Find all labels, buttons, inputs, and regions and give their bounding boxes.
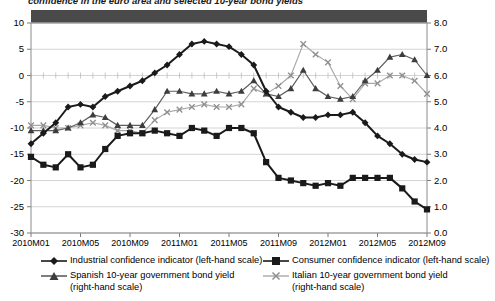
x-axis-tick: 2011M09 xyxy=(255,238,303,248)
right-axis-tick: 3.0 xyxy=(434,149,464,159)
legend-italian[interactable]: Italian 10-year government bond yield (r… xyxy=(262,270,495,293)
x-axis-tick: 2011M05 xyxy=(205,238,253,248)
left-axis-tick: -5 xyxy=(0,97,24,107)
legend-italian-label2: (right-hand scale) xyxy=(292,282,495,294)
right-axis-tick: 8.0 xyxy=(434,18,464,28)
right-axis-tick: 4.0 xyxy=(434,123,464,133)
left-axis-tick: -25 xyxy=(0,202,24,212)
legend-italian-label: Italian 10-year government bond yield xyxy=(292,270,495,282)
right-axis-tick: 1.0 xyxy=(434,202,464,212)
x-axis-tick: 2010M09 xyxy=(106,238,154,248)
series-italian xyxy=(28,41,430,136)
legend-industrial-label: Industrial confidence indicator (left-ha… xyxy=(70,255,280,267)
right-axis-tick: 6.0 xyxy=(434,71,464,81)
left-axis-tick: -20 xyxy=(0,176,24,186)
chart-root: confidence in the euro area and selected… xyxy=(0,0,495,301)
x-axis-tick: 2010M05 xyxy=(57,238,105,248)
left-axis-tick: -30 xyxy=(0,228,24,238)
left-axis-tick: -10 xyxy=(0,123,24,133)
legend-consumer-label: Consumer confidence indicator (left-hand… xyxy=(292,255,495,267)
legend-consumer[interactable]: Consumer confidence indicator (left-hand… xyxy=(262,255,495,267)
x-axis-tick: 2010M01 xyxy=(7,238,55,248)
square-line-marker xyxy=(262,255,292,266)
x-axis-tick: 2012M01 xyxy=(304,238,352,248)
cross-line-marker xyxy=(262,270,292,281)
legend-industrial[interactable]: Industrial confidence indicator (left-ha… xyxy=(40,255,280,267)
diamond-line-marker xyxy=(40,255,70,266)
legend-spanish-label2: (right-hand scale) xyxy=(70,282,280,294)
chart-legend: Industrial confidence indicator (left-ha… xyxy=(0,253,495,301)
left-axis-tick: 5 xyxy=(0,44,24,54)
x-axis-tick: 2012M05 xyxy=(354,238,402,248)
right-axis-tick: 0.0 xyxy=(434,228,464,238)
triangle-line-marker xyxy=(40,270,70,281)
left-axis-tick: -15 xyxy=(0,149,24,159)
left-axis-tick: 10 xyxy=(0,18,24,28)
right-axis-tick: 2.0 xyxy=(434,176,464,186)
right-axis-tick: 5.0 xyxy=(434,97,464,107)
series-spanish xyxy=(28,51,431,133)
x-axis-tick: 2011M01 xyxy=(156,238,204,248)
series-consumer xyxy=(28,125,430,213)
right-axis-tick: 7.0 xyxy=(434,44,464,54)
legend-spanish[interactable]: Spanish 10-year government bond yield (r… xyxy=(40,270,280,293)
left-axis-tick: 0 xyxy=(0,71,24,81)
series-layer xyxy=(28,38,431,213)
x-axis-tick: 2012M09 xyxy=(403,238,451,248)
legend-spanish-label: Spanish 10-year government bond yield xyxy=(70,270,280,282)
